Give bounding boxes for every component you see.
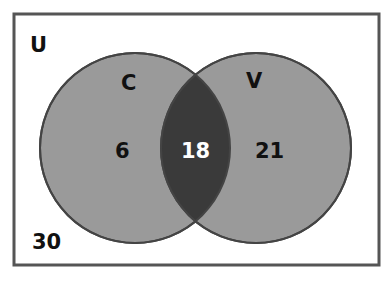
universe-label: U <box>30 33 47 57</box>
venn-diagram: U C V 6 18 21 30 <box>0 0 389 281</box>
outside-count: 30 <box>32 230 61 254</box>
set-c-only-count: 6 <box>115 139 130 163</box>
intersection-count: 18 <box>181 139 210 163</box>
set-v-label: V <box>246 69 263 93</box>
set-v-only-count: 21 <box>255 139 284 163</box>
set-c-label: C <box>121 71 136 95</box>
